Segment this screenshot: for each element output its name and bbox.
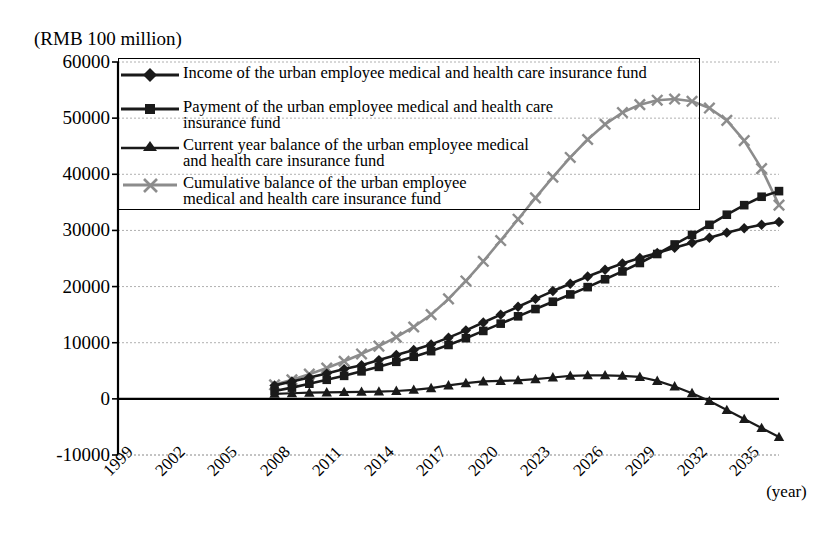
legend-item-income: Income of the urban employee medical and… (119, 65, 699, 83)
diamond-marker-icon (739, 223, 749, 233)
chart-container: (RMB 100 million) Income of the urban em… (0, 0, 819, 535)
square-marker-icon (688, 231, 697, 240)
square-marker-icon (636, 259, 645, 268)
diamond-marker-icon (756, 220, 766, 230)
chart-legend: Income of the urban employee medical and… (118, 58, 700, 210)
y-tick-label: 30000 (18, 220, 110, 239)
square-marker-icon (618, 267, 627, 276)
square-marker-icon (496, 319, 505, 328)
x-marker-icon (119, 177, 181, 193)
legend-item-current-balance: Current year balance of the urban employ… (119, 137, 699, 169)
legend-item-cumulative-balance: Cumulative balance of the urban employee… (119, 175, 699, 207)
square-marker-icon (549, 297, 558, 306)
x-marker-icon (722, 115, 732, 125)
square-marker-icon (775, 187, 784, 196)
x-marker-icon (478, 256, 488, 266)
square-marker-icon (322, 375, 331, 384)
square-marker-icon (653, 250, 662, 259)
diamond-marker-icon (119, 67, 181, 83)
square-marker-icon (409, 352, 418, 361)
diamond-marker-icon (722, 227, 732, 237)
square-marker-icon (723, 210, 732, 219)
x-axis-unit-label: (year) (766, 483, 807, 500)
diamond-marker-icon (704, 233, 714, 243)
x-marker-icon (356, 349, 366, 359)
square-marker-icon (375, 363, 384, 372)
square-marker-icon (479, 327, 488, 336)
x-marker-icon (513, 214, 523, 224)
series-line (275, 375, 779, 437)
square-marker-icon (566, 290, 575, 299)
square-marker-icon (119, 101, 181, 117)
triangle-marker-icon (119, 139, 181, 155)
square-marker-icon (392, 358, 401, 367)
diamond-marker-icon (774, 217, 784, 227)
x-marker-icon (774, 200, 784, 210)
legend-label-payment: Payment of the urban employee medical an… (181, 99, 553, 131)
square-marker-icon (427, 347, 436, 356)
square-marker-icon (583, 283, 592, 292)
series-line (275, 191, 779, 391)
x-marker-icon (391, 332, 401, 342)
y-tick-label: 10000 (18, 333, 110, 352)
legend-item-payment: Payment of the urban employee medical an… (119, 99, 699, 131)
y-tick-label: -10000 (18, 445, 110, 464)
diamond-marker-icon (513, 302, 523, 312)
x-marker-icon (443, 294, 453, 304)
square-marker-icon (462, 334, 471, 343)
square-marker-icon (757, 192, 766, 201)
series-line (275, 222, 779, 385)
diamond-marker-icon (600, 265, 610, 275)
series-triangle (269, 370, 784, 441)
diamond-marker-icon (495, 309, 505, 319)
x-marker-icon (704, 103, 714, 113)
x-marker-icon (495, 235, 505, 245)
x-marker-icon (461, 276, 471, 286)
y-tick-label: 50000 (18, 108, 110, 127)
diamond-marker-icon (565, 279, 575, 289)
legend-label-current-balance: Current year balance of the urban employ… (181, 137, 529, 169)
x-marker-icon (756, 163, 766, 173)
legend-label-cumulative-balance: Cumulative balance of the urban employee… (181, 175, 467, 207)
y-tick-label: 40000 (18, 164, 110, 183)
square-marker-icon (305, 379, 314, 388)
x-marker-icon (426, 309, 436, 319)
square-marker-icon (601, 275, 610, 284)
square-marker-icon (514, 312, 523, 321)
square-marker-icon (340, 372, 349, 381)
diamond-marker-icon (530, 294, 540, 304)
diamond-marker-icon (582, 271, 592, 281)
y-tick-label: 20000 (18, 277, 110, 296)
x-marker-icon (409, 322, 419, 332)
square-marker-icon (444, 341, 453, 350)
diamond-marker-icon (478, 317, 488, 327)
square-marker-icon (670, 240, 679, 249)
x-marker-icon (739, 135, 749, 145)
diamond-marker-icon (548, 286, 558, 296)
square-marker-icon (357, 367, 366, 376)
square-marker-icon (740, 201, 749, 210)
legend-label-income: Income of the urban employee medical and… (181, 65, 647, 81)
y-tick-label: 0 (18, 389, 110, 408)
square-marker-icon (531, 305, 540, 314)
y-tick-label: 60000 (18, 52, 110, 71)
square-marker-icon (705, 221, 714, 230)
